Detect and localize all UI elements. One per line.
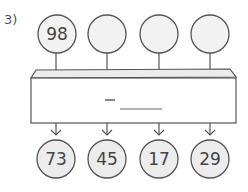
input-circle-3[interactable] — [140, 15, 178, 53]
input-circle-4[interactable] — [191, 15, 229, 53]
problem-number: 3) — [4, 12, 17, 27]
function-machine-box — [31, 69, 236, 123]
output-value-3: 17 — [148, 149, 170, 169]
output-arrows — [51, 123, 215, 135]
output-value-4: 29 — [199, 149, 221, 169]
input-circle-2[interactable] — [88, 15, 126, 53]
output-value-1: 73 — [45, 149, 67, 169]
function-machine-diagram: 3) 98 73 45 17 29 — [0, 0, 248, 192]
input-circles: 98 — [38, 15, 229, 53]
input-value-1: 98 — [46, 24, 68, 44]
output-value-2: 45 — [96, 149, 118, 169]
output-circles: 73 45 17 29 — [37, 140, 229, 178]
